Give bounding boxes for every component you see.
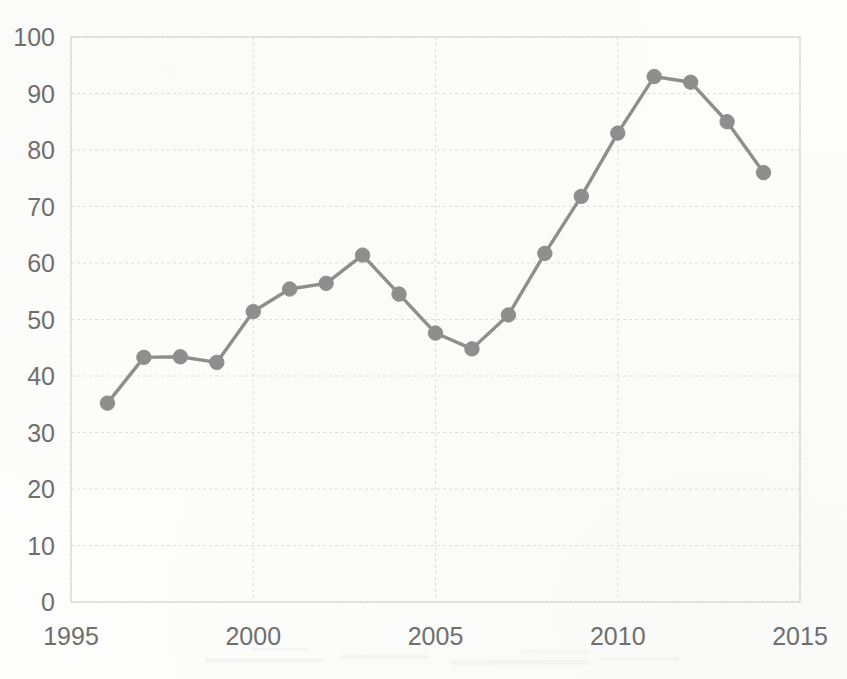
y-tick-label: 70 <box>27 193 55 221</box>
line-chart: 1009080706050403020100 19952000200520102… <box>0 0 847 679</box>
x-tick-label: 2000 <box>225 622 281 650</box>
scan-artifacts <box>205 648 680 665</box>
y-tick-label: 40 <box>27 362 55 390</box>
gridlines-group <box>71 37 800 602</box>
scan-smudge <box>520 650 590 653</box>
data-point-marker <box>100 396 114 410</box>
data-point-marker <box>283 282 297 296</box>
scan-smudge <box>205 658 325 663</box>
scan-smudge <box>450 660 590 665</box>
y-tick-label: 10 <box>27 532 55 560</box>
y-tick-label: 90 <box>27 80 55 108</box>
data-point-marker <box>355 248 369 262</box>
x-tick-label: 2015 <box>772 622 828 650</box>
y-tick-label: 0 <box>41 588 55 616</box>
x-tick-label: 1995 <box>43 622 99 650</box>
data-point-marker <box>683 75 697 89</box>
chart-page: 1009080706050403020100 19952000200520102… <box>0 0 847 679</box>
data-point-marker <box>392 287 406 301</box>
x-tick-label: 2005 <box>408 622 464 650</box>
y-tick-label: 60 <box>27 249 55 277</box>
data-point-marker <box>720 115 734 129</box>
data-point-marker <box>538 246 552 260</box>
x-axis-tick-labels: 19952000200520102015 <box>43 622 828 650</box>
data-point-marker <box>428 326 442 340</box>
series-line-1 <box>107 77 763 404</box>
data-point-marker <box>465 342 479 356</box>
data-series-group <box>107 77 763 404</box>
scan-smudge <box>250 648 310 651</box>
data-point-marker <box>574 189 588 203</box>
data-point-marker <box>173 350 187 364</box>
y-tick-label: 80 <box>27 136 55 164</box>
x-tick-label: 2010 <box>590 622 646 650</box>
scan-smudge <box>600 657 680 661</box>
data-point-marker <box>137 350 151 364</box>
data-point-marker <box>611 126 625 140</box>
y-tick-label: 50 <box>27 306 55 334</box>
data-point-marker <box>501 308 515 322</box>
data-point-marker <box>210 355 224 369</box>
data-point-marker <box>756 165 770 179</box>
data-point-marker <box>319 276 333 290</box>
data-point-marker <box>647 69 661 83</box>
y-axis-tick-labels: 1009080706050403020100 <box>13 23 55 616</box>
y-tick-label: 100 <box>13 23 55 51</box>
y-tick-label: 20 <box>27 475 55 503</box>
y-tick-label: 30 <box>27 419 55 447</box>
data-point-marker <box>246 304 260 318</box>
scan-smudge <box>340 655 430 659</box>
